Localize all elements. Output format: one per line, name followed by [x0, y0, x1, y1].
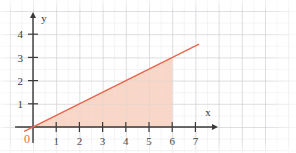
edge-fade-vertical: [0, 0, 296, 153]
coordinate-plane: 1 2 3 4 5 6 7 1 2 3 4 0 x y: [0, 0, 296, 153]
graph-figure: 1 2 3 4 5 6 7 1 2 3 4 0 x y: [0, 0, 296, 153]
